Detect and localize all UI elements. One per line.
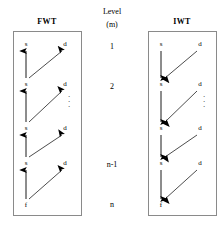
level-heading-line1: Level xyxy=(86,7,138,16)
fwt-node-d-level1: d xyxy=(60,41,70,48)
level-label-n-minus-1: n-1 xyxy=(86,160,138,169)
iwt-node-d-level-n-minus-1: d xyxy=(195,160,205,167)
fwt-node-d-level-n-minus-2: d xyxy=(60,125,70,132)
iwt-vertical-ellipsis-icon: ... xyxy=(201,93,207,108)
iwt-node-d-level-n-minus-2: d xyxy=(195,125,205,132)
iwt-node-f-signal: f xyxy=(156,202,166,209)
level-label-n: n xyxy=(86,200,138,209)
fwt-vertical-ellipsis-icon: ... xyxy=(66,93,72,108)
wavelet-transform-diagram: FWT IWT Level (m) 1 2 n-1 n s d s d s d … xyxy=(0,0,223,228)
fwt-node-f-signal: f xyxy=(21,202,31,209)
fwt-node-d-level-n-minus-1: d xyxy=(60,160,70,167)
level-label-1: 1 xyxy=(86,42,138,51)
iwt-panel-title: IWT xyxy=(148,17,216,26)
fwt-node-s-level1: s xyxy=(21,41,31,48)
iwt-node-d-level1: d xyxy=(195,41,205,48)
iwt-node-s-level-n-minus-2: s xyxy=(156,125,166,132)
fwt-node-s-level2: s xyxy=(21,81,31,88)
iwt-node-s-level2: s xyxy=(156,81,166,88)
level-label-2: 2 xyxy=(86,82,138,91)
fwt-node-d-level2: d xyxy=(60,81,70,88)
fwt-panel-title: FWT xyxy=(13,17,81,26)
fwt-node-s-level-n-minus-2: s xyxy=(21,125,31,132)
fwt-panel-box xyxy=(13,31,82,216)
fwt-node-s-level-n-minus-1: s xyxy=(21,160,31,167)
iwt-node-s-level-n-minus-1: s xyxy=(156,160,166,167)
iwt-node-s-level1: s xyxy=(156,41,166,48)
iwt-node-d-level2: d xyxy=(195,81,205,88)
level-heading-line2: (m) xyxy=(86,20,138,29)
iwt-panel-box xyxy=(148,31,217,216)
